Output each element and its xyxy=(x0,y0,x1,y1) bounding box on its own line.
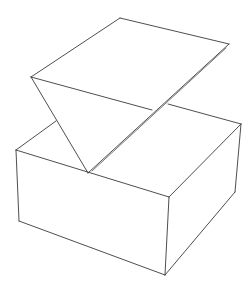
box-right-vertical-edge xyxy=(235,124,241,192)
wedge-crease-edge-2 xyxy=(92,48,226,171)
box-left-vertical-edge xyxy=(16,150,19,221)
box-top-back-edge xyxy=(168,104,241,124)
wedge-top-front-edge xyxy=(31,77,152,110)
wedge-top-back-edge xyxy=(120,18,229,44)
box-top-right-edge xyxy=(169,124,241,197)
box-top-front-edge xyxy=(16,150,169,197)
box-bottom-right-edge xyxy=(165,192,235,275)
wedge xyxy=(31,18,229,173)
figure-canvas xyxy=(0,0,252,290)
box-top-back-left-edge xyxy=(16,121,56,150)
box-front-vertical-edge xyxy=(165,197,169,275)
wedge-on-box-drawing xyxy=(0,0,252,290)
wedge-left-slope-edge xyxy=(31,77,88,173)
wedge-crease-edge-1 xyxy=(88,44,229,173)
wedge-top-left-edge xyxy=(31,18,120,77)
box-bottom-front-edge xyxy=(19,221,165,275)
box xyxy=(16,104,241,275)
